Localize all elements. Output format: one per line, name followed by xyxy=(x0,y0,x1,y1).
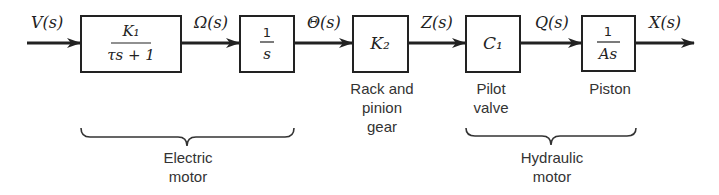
block-gain: C₁ xyxy=(483,33,503,53)
signal-label-output: X(s) xyxy=(647,13,681,32)
caption-rack-line2: pinion xyxy=(362,99,402,116)
curly-brace xyxy=(81,128,294,146)
block-motor-transfer-function: K₁ τs + 1 xyxy=(81,16,181,72)
group-label-electric-line1: Electric xyxy=(163,149,213,166)
curly-brace xyxy=(466,128,636,145)
signal-label-input: V(s) xyxy=(31,13,63,32)
caption-rack-line3: gear xyxy=(367,118,397,135)
caption-pilot-line2: valve xyxy=(473,99,508,116)
group-label-hydraulic-line2: motor xyxy=(533,168,571,185)
signal-label-q: Q(s) xyxy=(535,13,569,32)
block-numerator: K₁ xyxy=(121,22,139,40)
block-denominator: s xyxy=(263,45,271,63)
signal-label-z: Z(s) xyxy=(420,13,453,32)
block-numerator: 1 xyxy=(604,24,612,39)
caption-piston: Piston xyxy=(589,80,631,97)
block-piston: 1 As xyxy=(582,16,635,71)
caption-rack-line1: Rack and xyxy=(350,80,413,97)
signal-label-omega: Ω(s) xyxy=(193,13,228,32)
block-denominator: τs + 1 xyxy=(107,46,155,64)
signal-label-theta: Θ(s) xyxy=(307,13,341,32)
block-gain: K₂ xyxy=(369,33,390,53)
block-denominator: As xyxy=(597,45,618,63)
block-pilot-valve: C₁ xyxy=(466,16,520,72)
brace-electric-motor: Electric motor xyxy=(81,128,294,185)
block-numerator: 1 xyxy=(263,25,271,40)
block-diagram: V(s) Ω(s) Θ(s) Z(s) Q(s) X(s) K₁ τs + 1 … xyxy=(0,0,719,195)
caption-pilot-line1: Pilot xyxy=(476,80,506,97)
brace-hydraulic-motor: Hydraulic motor xyxy=(466,128,636,185)
block-rack-pinion: K₂ xyxy=(353,16,408,72)
block-integrator: 1 s xyxy=(240,16,294,72)
group-label-hydraulic-line1: Hydraulic xyxy=(521,149,584,166)
group-label-electric-line2: motor xyxy=(169,168,207,185)
